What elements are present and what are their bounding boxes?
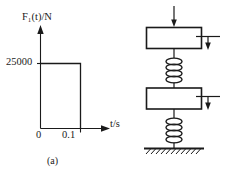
pulse-curve <box>41 64 81 129</box>
y-axis-arrowhead <box>37 25 43 34</box>
x-tick-label-0-1: 0.1 <box>62 130 75 141</box>
ground-hatching <box>146 149 201 154</box>
mass1-block <box>147 28 202 49</box>
y-axis-title: F₁(t)/N <box>22 12 52 23</box>
y-tick-label-25000: 25000 <box>6 57 32 68</box>
x-tick-label-0: 0 <box>36 130 41 141</box>
spring-k1 <box>166 58 182 83</box>
force-pulse-plot <box>0 0 116 179</box>
panel-a-force-time-chart: F₁(t)/N 25000 0 0.1 t/s (a) <box>0 0 116 179</box>
x-axis-arrowhead <box>101 125 110 131</box>
panel-b-mass-spring-diagram: F₁(t) m₁ m₂ k₁ k₂ x₁(t) x₂(t) (b) <box>116 0 232 179</box>
force-arrow-head <box>171 20 177 28</box>
mass-spring-schematic <box>116 0 232 179</box>
spring-k2 <box>166 118 182 143</box>
mass2-block <box>147 88 202 109</box>
caption-panel-a: (a) <box>47 156 58 166</box>
two-panel-figure: F₁(t)/N 25000 0 0.1 t/s (a) <box>0 0 232 179</box>
